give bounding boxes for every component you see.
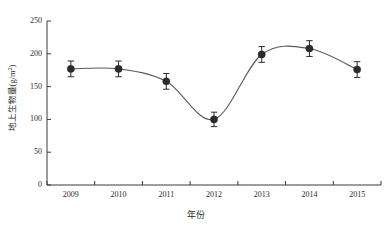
y-axis-ticks: [47, 21, 51, 185]
series-line: [71, 46, 357, 120]
x-axis-tick-label: 2013: [245, 190, 279, 199]
chart-figure: 地上生物量(g/m2) 年份 0501001502002502009201020…: [0, 0, 391, 230]
y-axis-tick-label: 50: [16, 147, 42, 156]
y-axis-tick-label: 200: [16, 49, 42, 58]
series-markers: [67, 45, 360, 123]
y-axis-tick-label: 250: [16, 16, 42, 25]
y-axis-tick-label: 0: [16, 180, 42, 189]
x-axis-tick-label: 2014: [292, 190, 326, 199]
data-point: [306, 45, 313, 52]
data-point: [258, 51, 265, 58]
data-point: [115, 65, 122, 72]
data-point: [354, 66, 361, 73]
x-axis-tick-label: 2009: [54, 190, 88, 199]
data-point: [163, 78, 170, 85]
x-axis-tick-label: 2012: [197, 190, 231, 199]
data-point: [67, 65, 74, 72]
x-axis-ticks: [47, 181, 381, 185]
x-axis-tick-label: 2011: [149, 190, 183, 199]
x-axis-tick-label: 2010: [102, 190, 136, 199]
y-axis-tick-label: 100: [16, 114, 42, 123]
x-axis-tick-label: 2015: [340, 190, 374, 199]
y-axis-tick-label: 150: [16, 82, 42, 91]
error-bars: [68, 41, 361, 127]
axis-lines: [47, 21, 381, 185]
data-point: [210, 116, 217, 123]
